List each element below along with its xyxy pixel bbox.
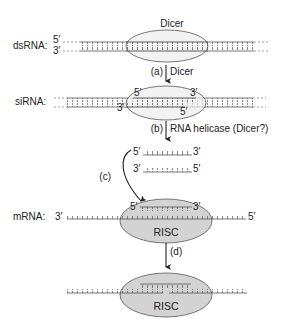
guide-5prime: 5′ <box>133 146 141 157</box>
dicer-label: Dicer <box>160 18 184 29</box>
risc-label: RISC <box>153 226 179 238</box>
mrna-label: mRNA: <box>13 211 45 222</box>
dsrna-stage: dsRNA: 5′ 3′ Dicer <box>13 18 270 62</box>
risc-label-cleaved: RISC <box>153 300 179 312</box>
step-b-letter: (b) <box>151 123 163 134</box>
dsrna-bottom-3prime: 3′ <box>53 45 61 56</box>
sirna-stage: siRNA: 5′ 3′ 3′ 5′ <box>15 86 266 120</box>
risc-guide-5prime: 5′ <box>130 201 138 212</box>
step-d-letter: (d) <box>170 246 182 257</box>
sirna-bottom-5prime: 5′ <box>180 106 188 117</box>
sirna-bottom-3prime: 3′ <box>117 102 125 113</box>
sirna-top-3prime: 3′ <box>190 87 198 98</box>
risc-guide-3prime: 3′ <box>193 201 201 212</box>
mrna-5prime: 5′ <box>248 211 256 222</box>
passenger-3prime: 3′ <box>133 163 141 174</box>
step-c: (c) <box>99 150 141 201</box>
step-b: (b) RNA helicase (Dicer?) <box>151 121 269 139</box>
cleaved-stage: RISC <box>67 273 247 317</box>
step-c-arrow <box>123 150 141 201</box>
dsrna-top-5prime: 5′ <box>53 34 61 45</box>
mrna-3prime: 3′ <box>55 211 63 222</box>
guide-3prime: 3′ <box>193 146 201 157</box>
step-c-letter: (c) <box>99 171 111 182</box>
passenger-5prime: 5′ <box>193 163 201 174</box>
rnai-pathway-diagram: dsRNA: 5′ 3′ Dicer (a) Dicer siRNA: <box>0 0 284 327</box>
step-a: (a) Dicer <box>151 65 194 81</box>
step-a-letter: (a) <box>151 66 163 77</box>
step-b-label: RNA helicase (Dicer?) <box>170 123 268 134</box>
step-d: (d) <box>166 243 182 267</box>
sirna-top-5prime: 5′ <box>134 87 142 98</box>
separated-strands: 5′ 3′ 3′ 5′ <box>133 146 201 174</box>
step-a-label: Dicer <box>170 66 194 77</box>
sirna-label: siRNA: <box>15 96 46 107</box>
dsrna-label: dsRNA: <box>13 40 47 51</box>
mrna-stage: mRNA: 3′ 5′ 5′ 3′ RISC <box>13 199 256 243</box>
